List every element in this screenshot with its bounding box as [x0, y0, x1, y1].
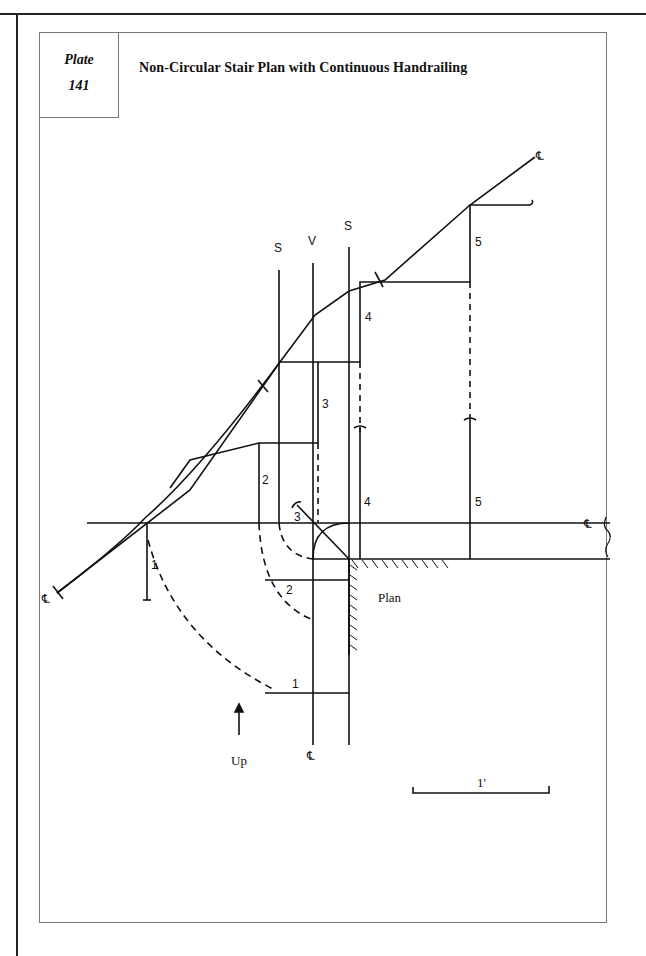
step-label-3-upper: 3	[322, 397, 329, 411]
centerline-symbol-left: ℄	[41, 592, 50, 606]
centerline-symbol-right: ℄	[583, 517, 592, 531]
step-label-5-plan: 5	[475, 495, 482, 509]
step-label-4-plan: 4	[364, 495, 371, 509]
step-profile	[259, 205, 530, 523]
handrail-curve-line	[57, 362, 280, 593]
label-v: V	[308, 234, 316, 248]
step-label-4-upper: 4	[365, 310, 372, 324]
plate-page: Plate 141 Non-Circular Stair Plan with C…	[0, 0, 646, 956]
step-label-1-plan: 1	[151, 558, 158, 572]
step-label-3-plan: 3	[294, 510, 301, 524]
label-s-right: S	[344, 219, 352, 233]
centerline-symbol-bottom: ℄	[306, 749, 315, 763]
up-label: Up	[231, 753, 247, 768]
step-label-1-lower: 1	[292, 677, 299, 691]
stair-drawing: S V S 2 3 4 5 1 2 3 4 5 1 Plan Up 1' ℄ ℄…	[0, 0, 646, 956]
plan-label: Plan	[378, 590, 402, 605]
label-s-left: S	[274, 241, 282, 255]
diagonal-riser-3	[297, 505, 349, 559]
step-label-2-plan: 2	[286, 583, 293, 597]
handrail-centerline	[57, 157, 535, 593]
scale-label: 1'	[477, 775, 486, 790]
step-label-5-upper: 5	[475, 235, 482, 249]
centerline-symbol-top: ℄	[535, 149, 544, 163]
step-label-2-upper: 2	[262, 473, 269, 487]
